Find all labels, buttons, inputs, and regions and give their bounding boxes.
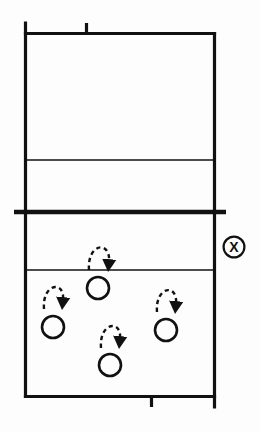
court-diagram-canvas: X bbox=[0, 0, 260, 432]
court-diagram: X bbox=[0, 0, 260, 432]
court-outline bbox=[26, 23, 215, 407]
movement-arrow-back-center bbox=[101, 326, 120, 348]
player-circle-back-center bbox=[99, 354, 121, 376]
court-interior-lines bbox=[14, 160, 226, 270]
court-tick-marks bbox=[87, 23, 152, 407]
player-circle-back-right bbox=[155, 319, 177, 341]
player-circle-front-center bbox=[87, 277, 109, 299]
movement-arrow-front-center bbox=[89, 247, 109, 270]
player-circle-back-left bbox=[42, 316, 64, 338]
movement-arrow-back-left bbox=[44, 287, 63, 309]
movement-arrow-back-right bbox=[157, 290, 176, 312]
ball-marker-x-label: X bbox=[229, 239, 239, 255]
ball-marker-circled-x: X bbox=[224, 237, 245, 258]
